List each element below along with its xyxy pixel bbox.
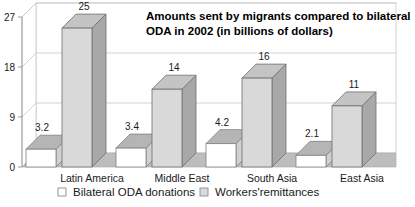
y-axis-tick-label: 0 (9, 162, 15, 173)
category-label: Middle East (155, 172, 210, 184)
bar-value-label: 14 (168, 62, 180, 73)
category-label: East Asia (340, 172, 384, 184)
bar-front-face (62, 28, 92, 167)
bar-value-label: 25 (78, 1, 90, 12)
bar-front-face (152, 89, 182, 167)
bar-front-face (332, 106, 362, 167)
legend-label-workers-remittances: Workers'remittances (215, 186, 319, 198)
category-label: South Asia (247, 172, 297, 184)
bar-front-face (26, 149, 56, 167)
legend-label-bilateral-oda-donations: Bilateral ODA donations (73, 186, 195, 198)
bar-front-face (296, 155, 326, 167)
legend: Bilateral ODA donations Workers'remittan… (58, 186, 319, 198)
bar-value-label: 2.1 (305, 128, 319, 139)
bar-remittances (62, 14, 106, 167)
bar-chart-3d: 091827 3.2253.4144.2162.111 Latin Americ… (0, 0, 415, 207)
legend-swatch-workers-remittances (200, 188, 208, 196)
bar-side-face (92, 14, 106, 167)
bar-front-face (116, 148, 146, 167)
category-label: Latin America (60, 172, 124, 184)
bar-value-label: 16 (258, 51, 270, 62)
chart-container: 091827 3.2253.4144.2162.111 Latin Americ… (0, 0, 415, 207)
bar-front-face (242, 78, 272, 167)
chart-title-line1: Amounts sent by migrants compared to bil… (146, 10, 411, 22)
bar-value-label: 4.2 (215, 117, 229, 128)
bar-front-face (206, 144, 236, 167)
y-axis-tick-label: 18 (4, 62, 16, 73)
bar-value-label: 3.4 (125, 121, 139, 132)
bar-remittances (332, 92, 376, 167)
bar-value-label: 11 (349, 79, 360, 90)
bar-value-label: 3.2 (35, 122, 49, 133)
bar-remittances (242, 64, 286, 167)
bar-remittances (152, 75, 196, 167)
chart-title-line2: ODA in 2002 (in billions of dollars) (146, 25, 333, 37)
y-axis-tick-label: 27 (4, 12, 16, 23)
bar-side-face (272, 64, 286, 167)
legend-swatch-bilateral-oda-donations (58, 188, 66, 196)
bar-side-face (182, 75, 196, 167)
y-axis-tick-label: 9 (9, 112, 15, 123)
